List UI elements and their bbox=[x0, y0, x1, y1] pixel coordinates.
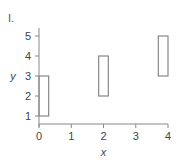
x-tick-label: 0 bbox=[36, 130, 42, 142]
x-tick-label: 2 bbox=[100, 130, 106, 142]
y-tick-label: 1 bbox=[25, 110, 31, 122]
y-tick-label: 4 bbox=[25, 50, 31, 62]
x-tick-label: 1 bbox=[68, 130, 74, 142]
x-axis-title: x bbox=[100, 146, 107, 158]
range-bar-chart: 0123412345xy bbox=[0, 0, 180, 166]
y-tick-label: 5 bbox=[25, 30, 31, 42]
y-axis-title: y bbox=[9, 70, 17, 82]
x-tick-label: 4 bbox=[165, 130, 171, 142]
range-box-2 bbox=[99, 56, 109, 96]
y-tick-label: 2 bbox=[25, 90, 31, 102]
y-tick-label: 3 bbox=[25, 70, 31, 82]
x-tick-label: 3 bbox=[133, 130, 139, 142]
range-box-1 bbox=[39, 76, 49, 116]
range-box-3 bbox=[158, 36, 168, 76]
